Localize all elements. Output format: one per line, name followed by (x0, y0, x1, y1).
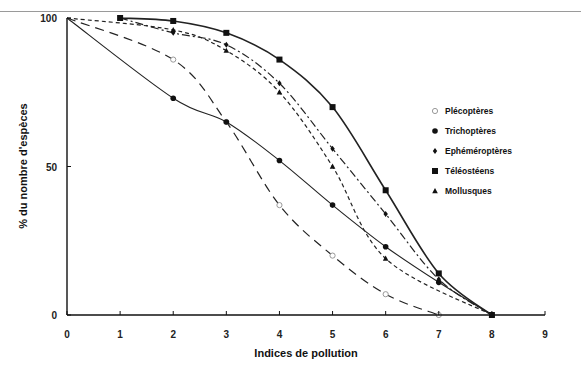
series-mollusques (67, 18, 495, 317)
legend: PlécoptèresTrichoptèresEphéméroptèresTél… (432, 106, 512, 196)
legend-item: Plécoptères (432, 106, 493, 116)
y-tick-label: 100 (40, 13, 57, 24)
x-tick-label: 3 (224, 329, 230, 340)
open-circle-marker (171, 57, 176, 62)
legend-label: Téléostéens (445, 166, 494, 176)
filled-square-marker (383, 187, 389, 193)
legend-item: Téléostéens (432, 166, 494, 176)
filled-square-icon (432, 168, 438, 174)
x-tick-label: 9 (542, 329, 548, 340)
series-layer (67, 15, 495, 318)
filled-triangle-marker (277, 89, 283, 94)
series-trichopteres (67, 18, 495, 318)
filled-circle-marker (170, 95, 176, 101)
x-tick-label: 5 (330, 329, 336, 340)
x-tick-label: 7 (436, 329, 442, 340)
diamond-icon (433, 148, 437, 154)
x-tick-label: 0 (64, 329, 70, 340)
legend-item: Ephéméroptères (433, 146, 513, 156)
x-tick-label: 1 (117, 329, 123, 340)
series-plecopteres (67, 18, 441, 318)
x-tick-label: 2 (170, 329, 176, 340)
filled-circle-marker (277, 158, 283, 164)
legend-label: Mollusques (445, 186, 492, 196)
legend-item: Mollusques (432, 186, 492, 196)
filled-square-marker (276, 57, 282, 63)
filled-circle-marker (383, 244, 389, 250)
filled-circle-marker (330, 202, 336, 208)
legend-label: Trichoptères (445, 126, 496, 136)
x-tick-label: 8 (489, 329, 495, 340)
y-axis-title: % du nombre d'espèces (17, 103, 29, 229)
open-circle-marker (383, 292, 388, 297)
filled-square-marker (117, 15, 123, 21)
open-circle-marker (277, 203, 282, 208)
filled-square-marker (170, 18, 176, 24)
triangle-icon (432, 188, 438, 193)
series-line (67, 18, 439, 315)
filled-triangle-marker (170, 27, 176, 32)
legend-label: Ephéméroptères (445, 146, 512, 156)
axes: 0123456789050100 (40, 13, 548, 340)
filled-triangle-marker (330, 164, 336, 169)
y-tick-label: 50 (46, 162, 58, 173)
y-tick-label: 0 (51, 310, 57, 321)
filled-circle-marker (224, 119, 230, 125)
legend-item: Trichoptères (432, 126, 496, 136)
open-circle-icon (432, 108, 437, 113)
filled-square-marker (223, 30, 229, 36)
filled-circle-icon (432, 128, 438, 134)
filled-square-marker (330, 104, 336, 110)
filled-square-marker (436, 270, 442, 276)
chart: 0123456789050100 Indices de pollution % … (0, 0, 581, 370)
filled-triangle-marker (224, 48, 230, 53)
x-tick-label: 6 (383, 329, 389, 340)
x-axis-title: Indices de pollution (254, 347, 358, 359)
open-circle-marker (330, 253, 335, 258)
legend-label: Plécoptères (445, 106, 493, 116)
diamond-marker (224, 42, 228, 48)
x-tick-label: 4 (277, 329, 283, 340)
